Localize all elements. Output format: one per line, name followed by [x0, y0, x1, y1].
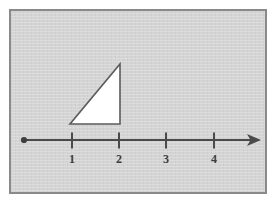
figure-panel: 1 2 3 4 [9, 9, 267, 194]
tick-label-4: 4 [211, 152, 217, 166]
origin-dot [21, 137, 27, 143]
tick-label-1: 1 [69, 152, 75, 166]
tick-label-2: 2 [116, 152, 122, 166]
tick-label-3: 3 [163, 152, 169, 166]
figure-root: 1 2 3 4 [0, 0, 277, 203]
right-triangle [70, 64, 120, 124]
number-line-diagram: 1 2 3 4 [11, 11, 265, 192]
